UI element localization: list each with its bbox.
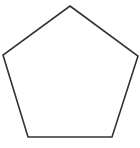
pentagon-shape [3, 6, 138, 137]
diagram-canvas [0, 0, 140, 148]
pentagon-diagram [0, 0, 140, 148]
